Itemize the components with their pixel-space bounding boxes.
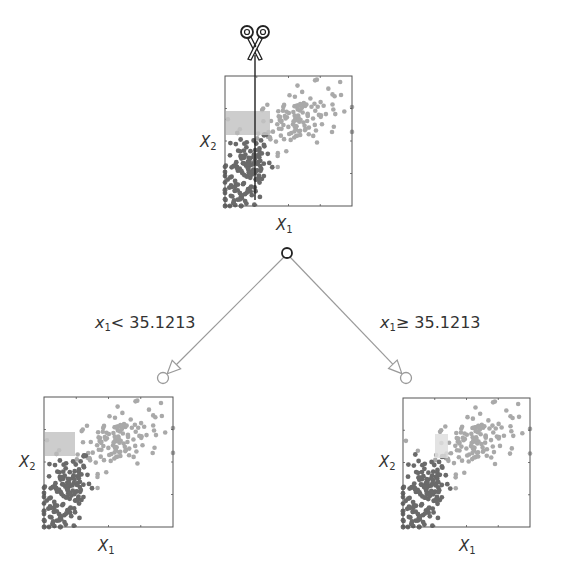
left-child-highlight-region — [45, 432, 75, 456]
right-child-node — [401, 373, 412, 384]
root-node — [282, 248, 292, 258]
right-split-condition: x1≥ 35.1213 — [380, 313, 481, 333]
root-x-axis-label: X1 — [276, 216, 293, 235]
left-x-axis-label: X1 — [98, 537, 115, 556]
decision-tree-diagram — [0, 0, 562, 578]
left-child-node — [158, 373, 169, 384]
scissors-icon — [241, 26, 269, 60]
root-y-axis-label: X2 — [200, 133, 217, 152]
root-highlight-region — [226, 111, 270, 135]
left-split-condition: x1< 35.1213 — [95, 313, 196, 333]
right-x-axis-label: X1 — [459, 537, 476, 556]
right-y-axis-label: X2 — [379, 453, 396, 472]
right-child-highlight-region — [435, 434, 448, 458]
left-y-axis-label: X2 — [19, 453, 36, 472]
